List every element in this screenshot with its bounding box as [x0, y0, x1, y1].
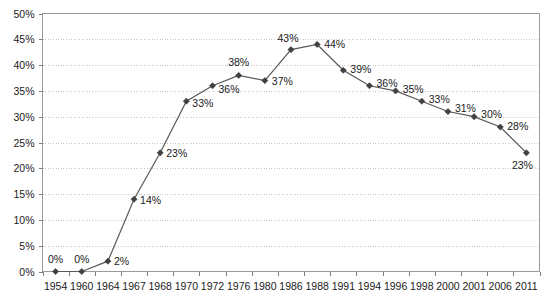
data-point-label: 2% — [114, 255, 129, 267]
data-point-marker — [366, 83, 372, 89]
data-point-marker — [236, 72, 242, 78]
y-axis-tick-labels: 0%5%10%15%20%25%30%35%40%45%50% — [13, 8, 34, 278]
y-axis-tick-label: 40% — [13, 59, 34, 71]
data-point-label: 0% — [74, 253, 89, 265]
y-axis-tick-label: 5% — [19, 240, 34, 252]
y-axis-tick-label: 0% — [19, 266, 34, 278]
data-point-label: 14% — [140, 194, 161, 206]
x-axis-tick-label: 1996 — [384, 280, 408, 292]
data-point-label: 23% — [512, 159, 533, 171]
data-point-label: 0% — [48, 253, 63, 265]
data-point-label: 38% — [228, 56, 249, 68]
data-point-marker — [471, 114, 477, 120]
x-axis-tick-label: 1976 — [227, 280, 251, 292]
data-point-marker — [105, 258, 111, 264]
data-point-label: 36% — [376, 77, 397, 89]
x-axis-tick-label: 2001 — [462, 280, 486, 292]
y-axis-tick-label: 25% — [13, 137, 34, 149]
data-point-label: 33% — [429, 93, 450, 105]
chart-canvas: 0%5%10%15%20%25%30%35%40%45%50% 19541960… — [0, 0, 557, 305]
data-point-marker — [445, 108, 451, 114]
gridlines-group — [43, 40, 540, 247]
x-axis-tick-label: 1998 — [410, 280, 434, 292]
x-axis-tick-label: 2011 — [515, 280, 538, 292]
x-axis-tick-label: 1972 — [201, 280, 225, 292]
data-point-marker — [209, 83, 215, 89]
data-point-marker — [183, 98, 189, 104]
x-axis-tick-label: 2000 — [436, 280, 460, 292]
y-axis-tick-label: 20% — [13, 162, 34, 174]
x-axis-tick-label: 1967 — [122, 280, 146, 292]
data-point-label: 35% — [403, 83, 424, 95]
data-point-label: 37% — [272, 75, 293, 87]
data-point-label: 43% — [277, 32, 298, 44]
data-point-label: 28% — [507, 120, 528, 132]
y-axis-tick-label: 45% — [13, 33, 34, 45]
data-point-marker — [157, 150, 163, 156]
x-axis-tick-label: 1994 — [358, 280, 382, 292]
x-axis-tick-label: 1988 — [305, 280, 329, 292]
data-point-label: 30% — [481, 108, 502, 120]
data-point-label: 23% — [166, 147, 187, 159]
x-axis-tick-label: 1968 — [149, 280, 173, 292]
x-axis-tick-label: 2006 — [489, 280, 513, 292]
y-axis-tick-label: 15% — [13, 188, 34, 200]
x-axis-tick-label: 1954 — [44, 280, 68, 292]
data-point-marker — [52, 268, 58, 274]
data-point-label: 33% — [192, 97, 213, 109]
data-point-label: 36% — [219, 83, 240, 95]
y-axis-tick-marks — [39, 15, 43, 273]
y-axis-tick-label: 30% — [13, 111, 34, 123]
line-chart: 0%5%10%15%20%25%30%35%40%45%50% 19541960… — [0, 0, 557, 305]
x-axis-tick-marks — [44, 272, 541, 276]
data-point-marker — [79, 268, 85, 274]
y-axis-tick-label: 50% — [13, 8, 34, 20]
data-point-label: 44% — [324, 38, 345, 50]
x-axis-tick-label: 1964 — [96, 280, 120, 292]
x-axis-tick-label: 1991 — [332, 280, 356, 292]
y-axis-tick-label: 10% — [13, 214, 34, 226]
x-axis-tick-label: 1986 — [279, 280, 303, 292]
data-point-label: 31% — [455, 102, 476, 114]
x-axis-tick-label: 1970 — [175, 280, 199, 292]
x-axis-tick-label: 1960 — [70, 280, 94, 292]
data-point-label: 39% — [350, 63, 371, 75]
y-axis-tick-label: 35% — [13, 85, 34, 97]
data-point-marker — [419, 98, 425, 104]
x-axis-tick-labels: 1954196019641967196819701972197619801986… — [44, 280, 538, 292]
x-axis-tick-label: 1980 — [253, 280, 277, 292]
data-point-marker — [131, 196, 137, 202]
